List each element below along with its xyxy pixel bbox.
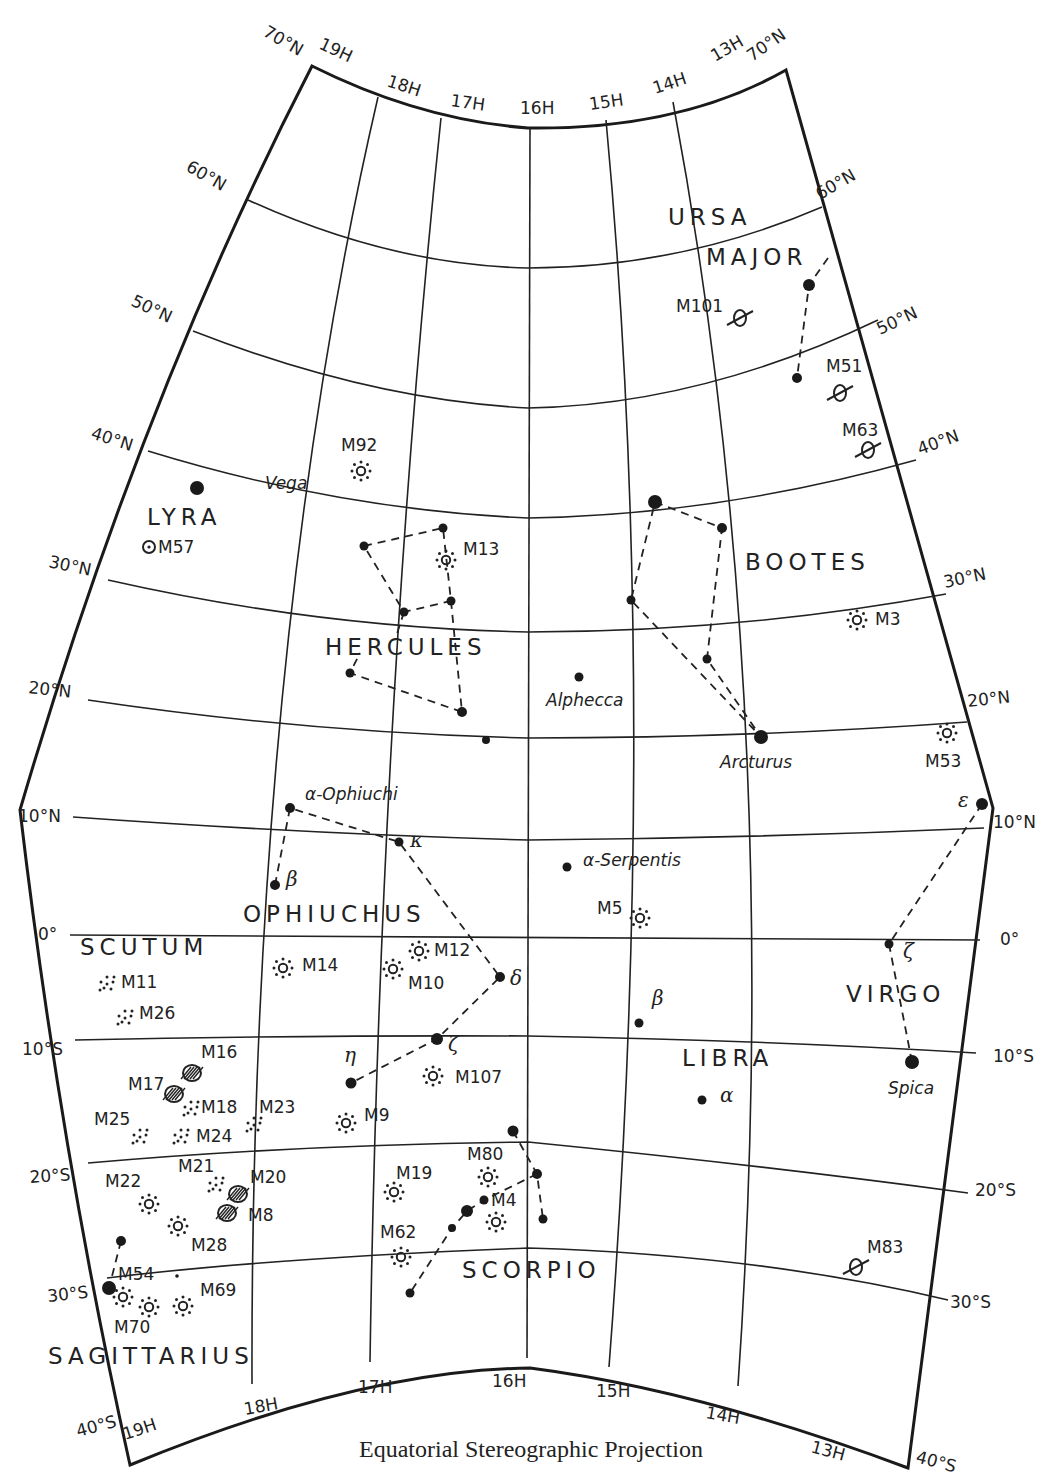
star-dot [495, 972, 505, 982]
star-dot [400, 608, 409, 617]
messier-label: M14 [302, 955, 338, 975]
ra-label: 13H [707, 31, 747, 66]
messier-m70-globular-icon [139, 1297, 160, 1318]
star-dot [698, 1096, 707, 1105]
ra-label: 14H [704, 1402, 741, 1428]
greek-letter-label: ε [958, 788, 969, 812]
constellation-name: BOOTES [745, 549, 870, 575]
messier-label: M62 [380, 1222, 416, 1242]
messier-label: M16 [201, 1042, 237, 1062]
messier-m24-open-icon [173, 1129, 190, 1145]
constellation-lines [109, 258, 982, 1293]
greek-letter-label: δ [510, 966, 522, 990]
star-dot [461, 1205, 473, 1217]
ra-label: 15H [596, 1381, 630, 1401]
messier-label: M83 [867, 1237, 903, 1257]
constellation-line-hercules-a [364, 528, 451, 612]
messier-m107-globular-icon [423, 1066, 444, 1087]
messier-m101-galaxy-icon [727, 310, 753, 326]
greek-letter-label: ζ [448, 1032, 460, 1056]
star-dot [635, 1019, 644, 1028]
messier-m21-open-icon [208, 1177, 225, 1193]
messier-m18-open-icon [183, 1101, 200, 1117]
star-dot [102, 1281, 116, 1295]
messier-m10-globular-icon [383, 959, 404, 980]
greek-letter-label: ζ [903, 939, 915, 963]
star-name: α-Serpentis [583, 850, 681, 870]
messier-m25-open-icon [132, 1129, 149, 1145]
messier-label: M26 [139, 1003, 175, 1023]
messier-m26-open-icon [117, 1010, 134, 1026]
star-dot [448, 1224, 456, 1232]
greek-letter-label: β [651, 986, 664, 1010]
messier-label: M57 [158, 537, 194, 557]
messier-m28-globular-icon [168, 1216, 189, 1237]
dec-label: 30°S [46, 1282, 89, 1306]
messier-label: M4 [491, 1190, 516, 1210]
star-dot [431, 1033, 443, 1045]
messier-m17-nebula-icon [163, 1086, 185, 1102]
star-dot [346, 669, 355, 678]
dec-label: 10°N [18, 806, 61, 826]
constellation-name: LIBRA [682, 1045, 773, 1071]
star-dot [395, 838, 404, 847]
messier-label: M80 [467, 1144, 503, 1164]
messier-label: M101 [676, 296, 723, 316]
dec-label: 10°N [993, 812, 1036, 832]
messier-label: M21 [178, 1156, 214, 1176]
star-chart: M101M51M63M83M57M92M13M3M53M5M14M12M10M1… [0, 0, 1062, 1481]
messier-label: M9 [364, 1105, 389, 1125]
messier-label: M5 [597, 898, 622, 918]
star-dot [346, 1078, 357, 1089]
star-dot [360, 542, 369, 551]
star-dot [532, 1169, 542, 1179]
constellation-name: URSA [668, 204, 752, 230]
star-dot [885, 940, 894, 949]
star-name: Arcturus [719, 752, 792, 772]
messier-m57-planetary-icon [143, 541, 155, 553]
messier-m9-globular-icon [336, 1113, 357, 1134]
dec-label: 20°N [28, 677, 73, 701]
messier-m92-globular-icon [351, 461, 372, 482]
dec-labels-right: 70°N 60°N 50°N 40°N 30°N 20°N 10°N 0° 10… [743, 24, 1036, 1476]
ra-label: 17H [358, 1377, 392, 1397]
messier-m22-globular-icon [139, 1194, 160, 1215]
star-dot [270, 880, 280, 890]
messier-label: M54 [118, 1264, 154, 1284]
star-dot [754, 730, 768, 744]
constellation-line-bootes [631, 502, 761, 737]
constellation-line-ursa-major [797, 258, 828, 378]
dec-label: 20°N [966, 687, 1011, 711]
constellation-name: HERCULES [325, 634, 487, 660]
constellation-name: SCORPIO [462, 1257, 601, 1283]
dec-label: 10°S [22, 1039, 63, 1059]
messier-label: M24 [196, 1126, 232, 1146]
star-dot [648, 495, 662, 509]
messier-label: M3 [875, 609, 900, 629]
messier-label: M20 [250, 1167, 286, 1187]
constellation-name: MAJOR [706, 244, 807, 270]
star-dot [482, 736, 490, 744]
star-dot [976, 798, 988, 810]
star-dot [717, 523, 727, 533]
messier-m53-globular-icon [937, 723, 958, 744]
messier-label: M69 [200, 1280, 236, 1300]
messier-label: M12 [434, 940, 470, 960]
messier-m23-open-icon [246, 1117, 263, 1133]
dec-label: 30°S [950, 1292, 991, 1312]
dec-label: 70°N [743, 24, 790, 65]
star-name: Spica [888, 1078, 934, 1098]
star-dot [905, 1055, 919, 1069]
greek-letter-label: β [285, 867, 298, 891]
ra-label: 17H [449, 90, 486, 115]
messier-label: M92 [341, 435, 377, 455]
star-dot [627, 596, 636, 605]
greek-letter-label: κ [409, 828, 423, 852]
star-dot [703, 655, 712, 664]
dec-label: 20°S [29, 1164, 71, 1187]
greek-letter-label: η [344, 1043, 356, 1067]
ra-label: 16H [492, 1371, 526, 1391]
messier-m11-open-icon [99, 976, 116, 992]
dec-label: 60°N [183, 156, 230, 195]
dec-labels-left: 70°N 60°N 50°N 40°N 30°N 20°N 10°N 0° 10… [18, 21, 307, 1441]
